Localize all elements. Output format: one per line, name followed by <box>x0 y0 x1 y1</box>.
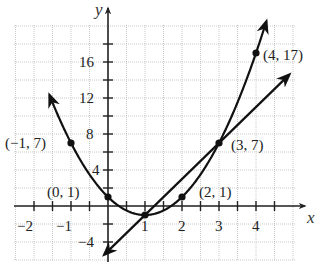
x-tick-label: 2 <box>178 218 186 234</box>
label-point-2-1: (2, 1) <box>199 184 232 201</box>
y-axis-label: y <box>93 0 103 19</box>
x-tick-label: 3 <box>215 218 223 234</box>
label-point-0-1: (0, 1) <box>47 184 80 201</box>
x-tick-label: −1 <box>56 218 72 234</box>
line-curve <box>104 75 289 255</box>
label-point-3-7: (3, 7) <box>231 137 264 154</box>
point-0-1 <box>104 193 111 200</box>
x-axis-label: x <box>306 208 315 227</box>
x-tick-label: 4 <box>252 218 260 234</box>
graph: (−1, 7) (0, 1) (2, 1) (3, 7) (4, 17) −2 … <box>0 0 323 269</box>
y-tick-label: −4 <box>78 234 94 250</box>
y-tick-label: 8 <box>86 126 94 142</box>
x-tick-label: 1 <box>141 218 149 234</box>
point-m1-7 <box>67 139 74 146</box>
x-tick-label: −2 <box>17 218 33 234</box>
y-tick-label: 12 <box>79 90 94 106</box>
label-point-4-17: (4, 17) <box>263 47 303 64</box>
parabola-curve <box>50 21 267 215</box>
point-4-17 <box>252 49 259 56</box>
label-point-m1-7: (−1, 7) <box>5 135 46 152</box>
y-tick-label: 16 <box>79 54 95 70</box>
point-2-1 <box>178 193 185 200</box>
y-tick-label: 4 <box>92 162 100 178</box>
point-3-7 <box>215 139 222 146</box>
